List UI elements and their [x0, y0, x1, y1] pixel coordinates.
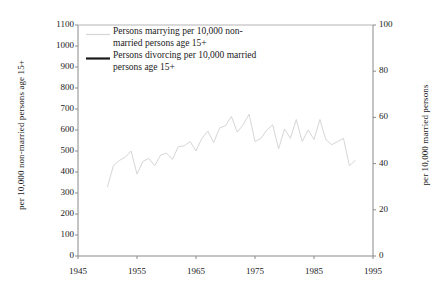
left-tick-label-100: 100 [30, 229, 74, 239]
left-tick-label-1100: 1100 [30, 19, 74, 29]
chart-legend: Persons marrying per 10,000 non- married… [86, 26, 336, 74]
right-tick-label-0: 0 [379, 250, 419, 260]
left-axis-title: per 10,000 non-married persons age 15+ [16, 19, 26, 251]
legend-swatch-marrying-line [86, 33, 110, 36]
right-axis-title: per 10,000 married persons [420, 19, 430, 251]
left-tick-label-700: 700 [30, 103, 74, 113]
legend-item-marrying: Persons marrying per 10,000 non- married… [86, 26, 336, 50]
right-tick-label-100: 100 [379, 19, 419, 29]
x-tick-label-1995: 1995 [353, 266, 393, 276]
left-tick-label-900: 900 [30, 61, 74, 71]
right-tick-label-60: 60 [379, 111, 419, 121]
left-tick-label-1000: 1000 [30, 40, 74, 50]
left-tick-label-400: 400 [30, 166, 74, 176]
left-tick-label-300: 300 [30, 187, 74, 197]
chart-container: per 10,000 non-married persons age 15+ p… [0, 0, 440, 294]
right-tick-label-40: 40 [379, 158, 419, 168]
left-tick-label-600: 600 [30, 124, 74, 134]
x-tick-label-1965: 1965 [176, 266, 216, 276]
left-tick-label-200: 200 [30, 208, 74, 218]
right-tick-label-20: 20 [379, 204, 419, 214]
left-tick-label-800: 800 [30, 82, 74, 92]
series-line-marrying [108, 114, 356, 186]
x-tick-label-1955: 1955 [117, 266, 157, 276]
legend-label-marrying: Persons marrying per 10,000 non- married… [113, 26, 243, 49]
left-tick-label-500: 500 [30, 145, 74, 155]
x-tick-label-1945: 1945 [58, 266, 98, 276]
right-tick-label-80: 80 [379, 65, 419, 75]
x-tick-label-1975: 1975 [235, 266, 275, 276]
left-tick-label-0: 0 [30, 250, 74, 260]
legend-label-divorcing: Persons divorcing per 10,000 married per… [113, 50, 256, 73]
legend-item-divorcing: Persons divorcing per 10,000 married per… [86, 50, 336, 74]
legend-swatch-divorcing-line [86, 57, 110, 60]
x-tick-label-1985: 1985 [294, 266, 334, 276]
